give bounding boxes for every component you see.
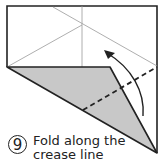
instruction-line-2: crease line	[33, 148, 125, 160]
instruction-line-1: Fold along the	[33, 134, 125, 148]
step-number-badge: 9	[8, 135, 27, 154]
step-caption: 9 Fold along the crease line	[8, 134, 125, 160]
left-diagonal-crease	[7, 25, 82, 67]
step-instruction: Fold along the crease line	[33, 134, 125, 160]
right-diagonal-crease	[53, 7, 157, 66]
